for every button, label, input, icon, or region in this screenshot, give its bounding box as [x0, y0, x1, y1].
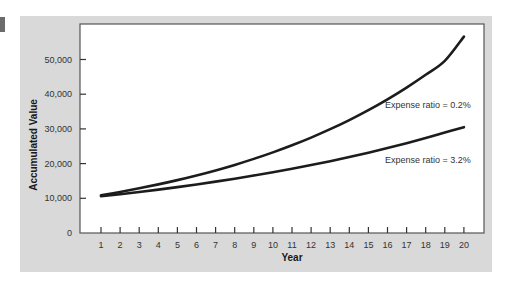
x-tick-label: 18	[421, 240, 431, 250]
x-tick-label: 3	[137, 240, 142, 250]
x-tick-label: 14	[344, 240, 354, 250]
x-tick-label: 12	[306, 240, 316, 250]
y-axis-title: Accumulated Value	[28, 99, 39, 191]
x-tick-label: 4	[156, 240, 161, 250]
x-axis-title: Year	[281, 252, 302, 263]
x-tick-label: 2	[118, 240, 123, 250]
annotation-top-series: Expense ratio = 0.2%	[385, 100, 471, 110]
x-tick-label: 5	[175, 240, 180, 250]
y-tick-label: 10,000	[44, 193, 72, 203]
x-tick-label: 11	[287, 240, 296, 250]
x-tick-label: 20	[459, 240, 469, 250]
x-tick-label: 1	[98, 240, 103, 250]
x-tick-label: 8	[232, 240, 237, 250]
x-tick-label: 10	[268, 240, 278, 250]
accumulated-value-chart: 010,00020,00030,00040,00050,000 12345678…	[0, 0, 512, 285]
x-tick-label: 19	[440, 240, 450, 250]
y-tick-label: 50,000	[44, 55, 72, 65]
x-tick-label: 9	[251, 240, 256, 250]
x-tick-label: 7	[213, 240, 218, 250]
y-tick-label: 20,000	[44, 159, 72, 169]
y-tick-label: 40,000	[44, 89, 72, 99]
plot-area	[80, 24, 484, 233]
x-tick-label: 13	[325, 240, 335, 250]
x-tick-label: 16	[382, 240, 392, 250]
y-tick-label: 0	[67, 228, 72, 238]
y-tick-label: 30,000	[44, 124, 72, 134]
annotation-bottom-series: Expense ratio = 3.2%	[385, 155, 471, 165]
x-tick-label: 17	[402, 240, 412, 250]
x-tick-label: 6	[194, 240, 199, 250]
x-tick-label: 15	[363, 240, 373, 250]
